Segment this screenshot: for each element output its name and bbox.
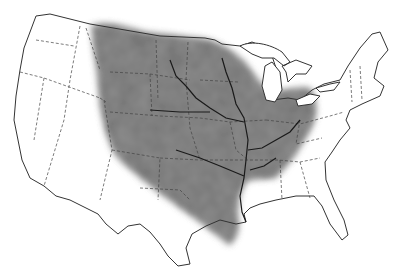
us-map	[0, 0, 408, 278]
map-svg	[0, 0, 408, 278]
